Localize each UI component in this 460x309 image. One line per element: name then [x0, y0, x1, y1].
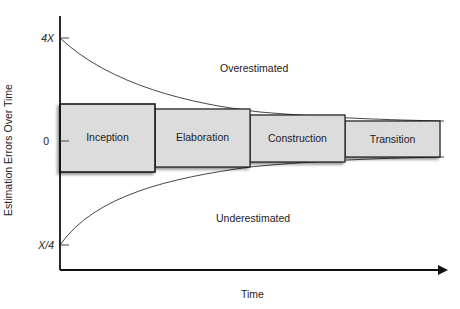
diagram-graphics [0, 0, 460, 309]
underestimated-label: Underestimated [216, 212, 290, 224]
phase-label-construction: Construction [250, 132, 345, 144]
y-axis-label: Estimation Errors Over Time [2, 84, 14, 216]
phase-label-transition: Transition [345, 133, 440, 145]
phase-label-inception: Inception [60, 131, 155, 143]
y-tick-0: 0 [19, 135, 49, 147]
y-tick-4x: 4X [24, 32, 54, 44]
x-axis-arrowhead [438, 265, 448, 275]
y-tick-x-over-4: X/4 [24, 239, 54, 251]
overestimated-label: Overestimated [220, 62, 288, 74]
x-axis-label: Time [241, 288, 264, 300]
phase-label-elaboration: Elaboration [155, 131, 250, 143]
cone-of-uncertainty-diagram: 4X 0 X/4 Estimation Errors Over Time Ove… [0, 0, 460, 309]
